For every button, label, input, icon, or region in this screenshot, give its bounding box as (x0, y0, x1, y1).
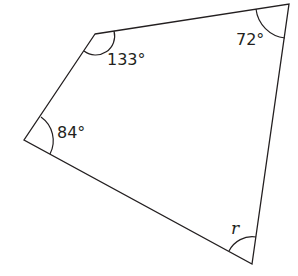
angle-label-84: 84° (57, 123, 85, 142)
angle-label-r: r (231, 218, 240, 238)
angle-arc-bottom-right (229, 237, 256, 251)
angle-arc-left (41, 117, 53, 154)
angle-label-72: 72° (236, 30, 264, 49)
angle-label-133: 133° (107, 50, 146, 69)
quadrilateral-diagram: 133° 72° 84° r (0, 0, 298, 276)
